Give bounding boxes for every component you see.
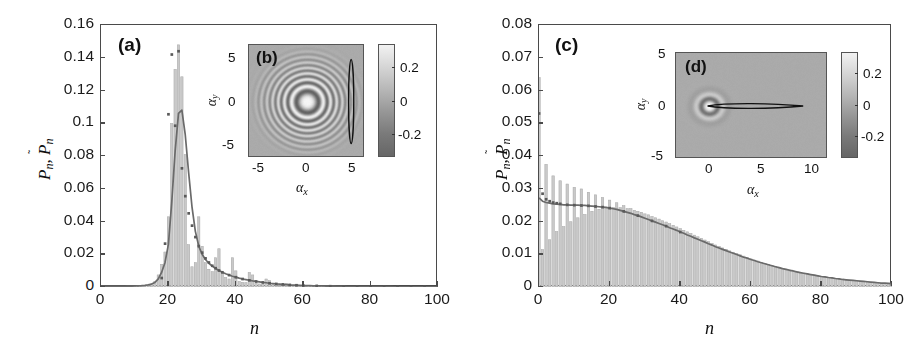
inset-d-ytick-1: 0 [658, 98, 666, 113]
panel-c-ytick-3: 0.03 [476, 178, 532, 196]
inset-b-cbar-tick-1: 0 [400, 94, 408, 109]
panel-a-xtick-mark-2 [235, 281, 236, 286]
panel-c-ytick-2: 0.02 [476, 211, 532, 229]
panel-c-ytick-8: 0.08 [476, 14, 532, 32]
panel-a-xtick-mark-0 [100, 281, 101, 286]
panel-a-xtick-1: 20 [137, 290, 197, 308]
panel-c-ytick-mark-7 [538, 57, 543, 58]
panel-a-xtick-5: 100 [407, 290, 467, 308]
panel-a-ytick-mark-2 [100, 221, 105, 222]
figure-root: Pn, P ˜ n (a) 00.020.040.060.080.10.120.… [0, 0, 918, 348]
inset-d-cbar-tickmark-0 [855, 73, 858, 74]
panel-a-ytick-mark-7 [100, 57, 105, 58]
panel-a-xtick-4: 80 [340, 290, 400, 308]
panel-c-ytick-mark-3 [538, 188, 543, 189]
panel-c-ytick-mark-0 [538, 286, 543, 287]
panel-a-ytick-mark-1 [100, 253, 105, 254]
panel-c-xtick-3: 60 [720, 290, 780, 308]
panel-a-ytick-7: 0.14 [38, 47, 94, 65]
panel-c-xtick-0: 0 [508, 290, 568, 308]
panel-c-ytick-mark-5 [538, 122, 543, 123]
panel-a-xtick-mark-1 [167, 281, 168, 286]
inset-d-ylabel: αy [633, 98, 650, 110]
inset-b-tag: (b) [256, 48, 278, 68]
inset-b-xtick-1: 0 [302, 160, 310, 175]
panel-c-xtick-mark-2 [679, 281, 680, 286]
inset-d-ytick-0: -5 [651, 148, 663, 163]
panel-c-ytick-5: 0.05 [476, 112, 532, 130]
panel-a-ytick-2: 0.04 [38, 211, 94, 229]
inset-b-cbar-tickmark-2 [392, 134, 395, 135]
panel-c-xtick-5: 100 [861, 290, 918, 308]
panel-a-xtick-2: 40 [205, 290, 265, 308]
inset-d-xtick-1: 5 [757, 161, 765, 176]
panel-a-xtick-3: 60 [272, 290, 332, 308]
panel-a-xtick-mark-4 [370, 281, 371, 286]
panel-a-ytick-5: 0.1 [38, 112, 94, 130]
inset-b-xtick-2: 5 [348, 160, 356, 175]
panel-a-ytick-mark-0 [100, 286, 105, 287]
panel-a-ytick-1: 0.02 [38, 243, 94, 261]
panel-a-xtick-mark-3 [302, 281, 303, 286]
panel-c-xlabel: n [705, 318, 714, 339]
panel-a-ytick-mark-4 [100, 155, 105, 156]
panel-c-ytick-mark-8 [538, 24, 543, 25]
panel-c-xtick-4: 80 [790, 290, 850, 308]
inset-b-ylabel: αy [204, 94, 221, 106]
inset-d-xtick-0: 0 [705, 161, 713, 176]
panel-c: Pn, P ˜ n (c) 00.010.020.030.040.050.060… [459, 0, 918, 348]
panel-c-xtick-mark-0 [538, 281, 539, 286]
panel-c-ytick-mark-4 [538, 155, 543, 156]
panel-c-ytick-mark-6 [538, 90, 543, 91]
inset-d-xtick-2: 10 [804, 161, 819, 176]
panel-a-ytick-mark-3 [100, 188, 105, 189]
panel-c-tag: (c) [555, 34, 578, 56]
inset-d-xlabel: αx [747, 182, 759, 199]
panel-c-ytick-mark-1 [538, 253, 543, 254]
panel-c-xtick-1: 20 [579, 290, 639, 308]
inset-b-ytick-0: -5 [222, 137, 234, 152]
inset-d-tag: (d) [685, 57, 707, 77]
panel-a-ytick-3: 0.06 [38, 178, 94, 196]
inset-b-xtick-0: -5 [252, 160, 264, 175]
panel-a: Pn, P ˜ n (a) 00.020.040.060.080.10.120.… [0, 0, 459, 348]
panel-a-ytick-8: 0.16 [38, 14, 94, 32]
panel-c-xtick-mark-5 [891, 281, 892, 286]
inset-d-cbar-tick-1: 0 [863, 98, 871, 113]
inset-b-xlabel: αx [296, 180, 308, 197]
inset-d-cbar-tickmark-1 [855, 105, 858, 106]
inset-b-cbar-tick-0: 0.2 [400, 60, 419, 75]
panel-c-xtick-2: 40 [649, 290, 709, 308]
panel-c-ytick-7: 0.07 [476, 47, 532, 65]
panel-a-xlabel: n [250, 318, 259, 339]
inset-d-cbar-tickmark-2 [855, 136, 858, 137]
panel-c-ytick-mark-2 [538, 221, 543, 222]
inset-b-cbar-tickmark-1 [392, 101, 395, 102]
panel-a-ytick-mark-5 [100, 122, 105, 123]
panel-c-xtick-mark-4 [820, 281, 821, 286]
inset-d-ytick-2: 5 [658, 46, 666, 61]
inset-d-cbar-tick-2: -0.2 [861, 129, 884, 144]
panel-c-ytick-1: 0.01 [476, 243, 532, 261]
inset-b-cbar-tick-2: -0.2 [398, 127, 421, 142]
panel-c-xtick-mark-3 [750, 281, 751, 286]
panel-a-ytick-mark-8 [100, 24, 105, 25]
panel-a-ytick-4: 0.08 [38, 145, 94, 163]
panel-a-xtick-mark-5 [437, 281, 438, 286]
panel-a-tag: (a) [118, 34, 141, 56]
panel-c-ytick-6: 0.06 [476, 80, 532, 98]
panel-a-xtick-0: 0 [70, 290, 130, 308]
panel-c-xtick-mark-1 [609, 281, 610, 286]
inset-b-ytick-1: 0 [228, 94, 236, 109]
inset-b-ytick-2: 5 [228, 50, 236, 65]
panel-a-ytick-6: 0.12 [38, 80, 94, 98]
panel-c-ytick-4: 0.04 [476, 145, 532, 163]
inset-b-cbar-tickmark-0 [392, 67, 395, 68]
inset-d-cbar-tick-0: 0.2 [863, 66, 882, 81]
panel-a-ytick-mark-6 [100, 90, 105, 91]
